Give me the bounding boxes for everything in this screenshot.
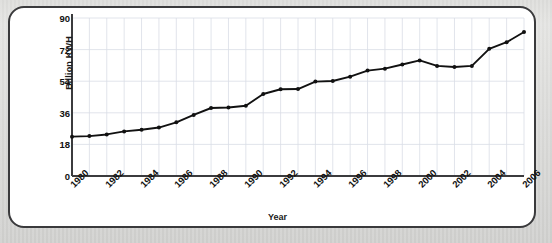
data-point — [279, 87, 283, 91]
chart-screenshot: 01836547290 1980198219841986198819901992… — [0, 0, 552, 243]
data-point — [105, 132, 109, 136]
y-axis-title: Billion KWH — [64, 18, 74, 108]
data-point — [209, 106, 213, 110]
line-chart-svg — [0, 0, 552, 243]
data-point — [400, 63, 404, 67]
y-axis-tick-label: 18 — [44, 139, 70, 150]
data-point — [522, 30, 526, 34]
data-point — [87, 134, 91, 138]
data-point — [70, 135, 74, 139]
data-point — [157, 126, 161, 130]
data-point — [174, 120, 178, 124]
data-point — [261, 92, 265, 96]
x-axis-title: Year — [268, 212, 287, 222]
plot-area: 01836547290 1980198219841986198819901992… — [0, 0, 552, 243]
y-axis-tick-label: 36 — [44, 107, 70, 118]
data-point — [487, 47, 491, 51]
data-point — [296, 87, 300, 91]
data-point — [470, 64, 474, 68]
data-point — [226, 105, 230, 109]
data-point — [348, 75, 352, 79]
data-point — [452, 65, 456, 69]
data-point — [122, 129, 126, 133]
data-point — [140, 128, 144, 132]
data-point — [383, 67, 387, 71]
data-point — [313, 80, 317, 84]
data-point — [331, 79, 335, 83]
data-point — [505, 40, 509, 44]
data-point — [435, 64, 439, 68]
data-point — [418, 58, 422, 62]
data-point — [244, 104, 248, 108]
data-point — [192, 113, 196, 117]
y-axis-tick-label: 0 — [44, 171, 70, 182]
data-point — [366, 69, 370, 73]
